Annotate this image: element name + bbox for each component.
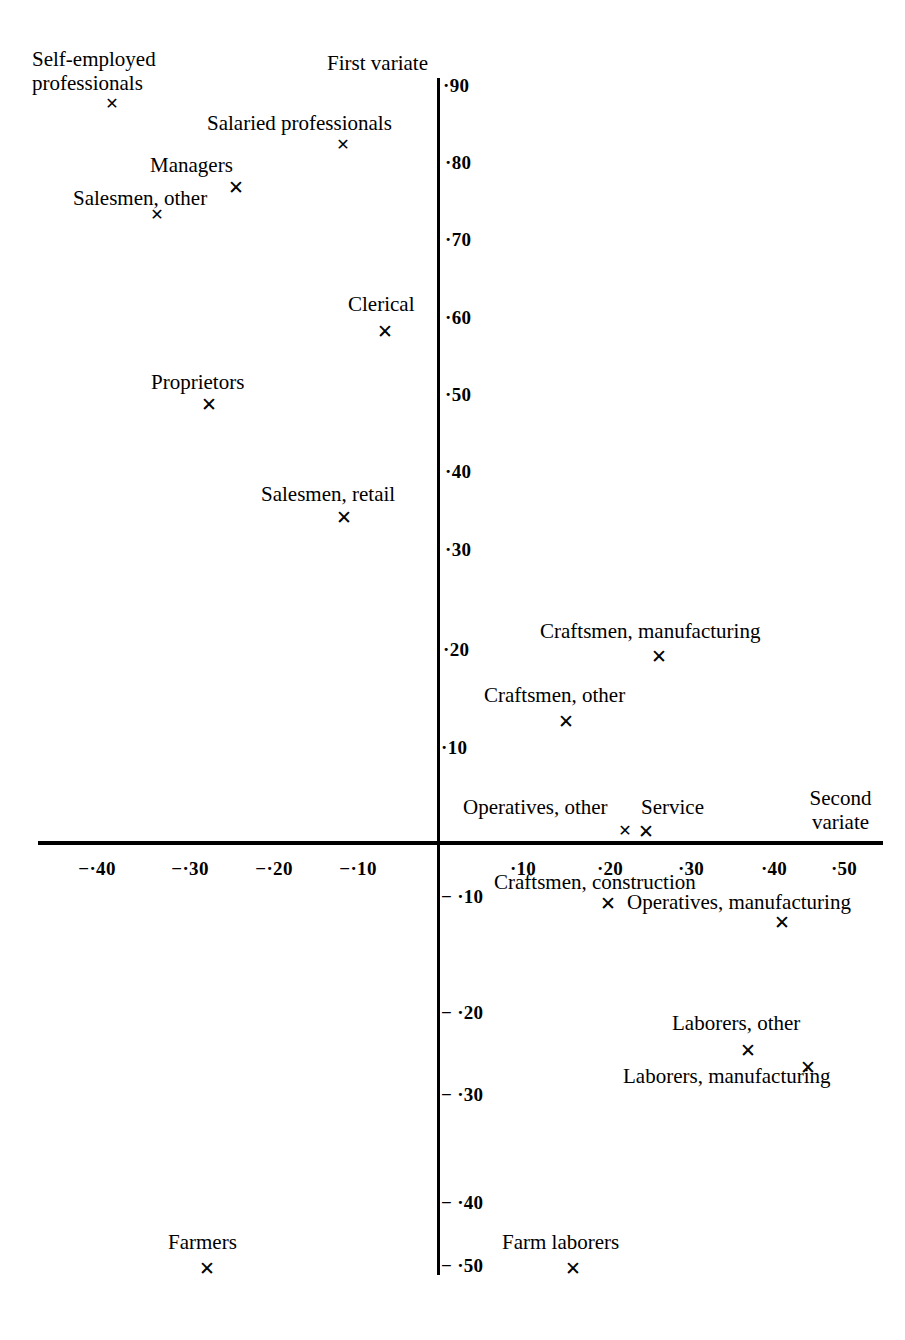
x-axis-title-line2: variate (783, 811, 898, 835)
point-marker-craftsmen-construction: ✕ (600, 894, 616, 913)
x-tick-minus-20: −·20 (255, 859, 292, 878)
point-marker-service: ✕ (638, 822, 654, 841)
y-axis-line (437, 78, 440, 1275)
point-marker-craftsmen-other: ✕ (558, 712, 574, 731)
x-axis-title-line1: Second (783, 787, 898, 811)
y-tick-90: ·90 (443, 76, 469, 95)
point-marker-craftsmen-manufacturing: ✕ (651, 647, 667, 666)
y-tick-80: ·80 (445, 153, 471, 172)
point-label-managers: Managers (150, 155, 233, 176)
point-marker-operatives-other: ✕ (618, 823, 631, 839)
scatter-plot-figure: First variate Second variate ·90 ·80 ·70… (0, 0, 905, 1340)
point-label-farm-laborers: Farm laborers (502, 1232, 619, 1253)
y-axis-title: First variate (288, 52, 428, 76)
point-marker-salesmen-other: ✕ (150, 207, 163, 223)
y-tick-30: ·30 (445, 540, 471, 559)
y-tick-minus-10: − ·10 (441, 887, 483, 906)
point-label-clerical: Clerical (348, 294, 414, 315)
point-marker-self-employed-professionals: ✕ (105, 96, 118, 112)
y-tick-10: ·10 (441, 738, 467, 757)
x-axis-line (38, 841, 883, 845)
point-label-craftsmen-other: Craftsmen, other (484, 685, 625, 706)
self-employed-line2: professionals (32, 72, 156, 96)
point-label-craftsmen-manufacturing: Craftsmen, manufacturing (540, 621, 760, 642)
point-label-operatives-other: Operatives, other (463, 797, 608, 818)
point-marker-laborers-other: ✕ (740, 1041, 756, 1060)
point-marker-proprietors: ✕ (201, 395, 217, 414)
x-axis-title: Second variate (783, 787, 898, 834)
point-marker-farmers: ✕ (199, 1259, 215, 1278)
x-tick-minus-10: −·10 (339, 859, 376, 878)
point-marker-clerical: ✕ (377, 322, 393, 341)
x-tick-50: ·50 (831, 859, 857, 878)
y-tick-70: ·70 (445, 230, 471, 249)
x-tick-40: ·40 (761, 859, 787, 878)
point-label-operatives-manufacturing: Operatives, manufacturing (627, 892, 851, 913)
point-marker-operatives-manufacturing: ✕ (774, 913, 790, 932)
point-label-proprietors: Proprietors (151, 372, 244, 393)
y-tick-minus-30: − ·30 (441, 1085, 483, 1104)
point-label-laborers-other: Laborers, other (672, 1013, 800, 1034)
point-marker-managers: ✕ (228, 178, 244, 197)
point-label-self-employed-professionals: Self-employed professionals (32, 48, 156, 96)
self-employed-line1: Self-employed (32, 48, 156, 72)
y-tick-minus-50: − ·50 (441, 1256, 483, 1275)
point-label-farmers: Farmers (168, 1232, 237, 1253)
point-label-laborers-manufacturing: Laborers, manufacturing (623, 1066, 831, 1087)
x-tick-minus-40: −·40 (78, 859, 115, 878)
y-tick-40: ·40 (445, 462, 471, 481)
y-tick-60: ·60 (445, 308, 471, 327)
y-tick-50: ·50 (445, 385, 471, 404)
point-marker-salesmen-retail: ✕ (336, 508, 352, 527)
point-label-salaried-professionals: Salaried professionals (207, 113, 392, 134)
y-tick-minus-40: − ·40 (441, 1193, 483, 1212)
y-tick-minus-20: − ·20 (441, 1003, 483, 1022)
point-label-service: Service (641, 797, 704, 818)
point-marker-farm-laborers: ✕ (565, 1259, 581, 1278)
point-label-salesmen-retail: Salesmen, retail (261, 484, 395, 505)
point-label-salesmen-other: Salesmen, other (73, 188, 207, 209)
x-tick-minus-30: −·30 (171, 859, 208, 878)
point-marker-salaried-professionals: ✕ (336, 137, 349, 153)
y-tick-20: ·20 (443, 640, 469, 659)
